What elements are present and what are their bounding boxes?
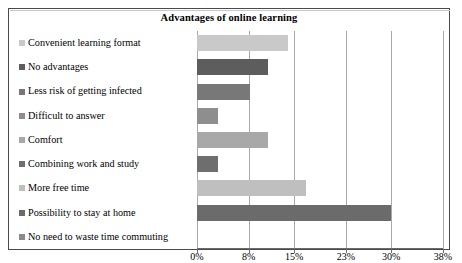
legend-item[interactable]: Less risk of getting infected bbox=[19, 79, 142, 103]
legend-swatch-icon bbox=[19, 64, 25, 70]
legend-item-label: No need to waste time commuting bbox=[28, 232, 168, 242]
legend-item[interactable]: No advantages bbox=[19, 55, 88, 79]
legend-item-label: Comfort bbox=[28, 135, 63, 145]
bar-slot bbox=[197, 104, 443, 128]
chart-container: Advantages of online learning Convenient… bbox=[8, 8, 450, 250]
legend-swatch-icon bbox=[19, 40, 25, 46]
chart-legend: Convenient learning formatNo advantagesL… bbox=[19, 31, 201, 249]
x-axis-tick-label: 38% bbox=[434, 251, 452, 262]
bar[interactable] bbox=[197, 84, 250, 100]
bar-slot bbox=[197, 201, 443, 225]
x-axis-tick-labels: 0%8%15%23%30%38% bbox=[197, 251, 443, 263]
legend-swatch-icon bbox=[19, 137, 25, 143]
legend-item-label: More free time bbox=[28, 183, 89, 193]
legend-item[interactable]: Possibility to stay at home bbox=[19, 201, 136, 225]
x-axis-tick-label: 23% bbox=[337, 251, 355, 262]
x-axis-tick-label: 30% bbox=[382, 251, 400, 262]
legend-item-label: Possibility to stay at home bbox=[28, 208, 136, 218]
chart-title: Advantages of online learning bbox=[9, 12, 449, 23]
legend-item-label: Convenient learning format bbox=[28, 38, 141, 48]
bar-slot bbox=[197, 176, 443, 200]
legend-item-label: No advantages bbox=[28, 62, 88, 72]
legend-item-label: Combining work and study bbox=[28, 159, 139, 169]
bar-slot bbox=[197, 55, 443, 79]
legend-item-label: Less risk of getting infected bbox=[28, 86, 142, 96]
gridline bbox=[443, 31, 444, 249]
legend-swatch-icon bbox=[19, 234, 25, 240]
bar-slot bbox=[197, 31, 443, 55]
bar[interactable] bbox=[197, 156, 218, 172]
legend-item-label: Difficult to answer bbox=[28, 111, 105, 121]
legend-item[interactable]: Combining work and study bbox=[19, 152, 139, 176]
legend-item[interactable]: Comfort bbox=[19, 128, 63, 152]
legend-item[interactable]: Difficult to answer bbox=[19, 104, 105, 128]
bar[interactable] bbox=[197, 108, 218, 124]
title-divider bbox=[10, 10, 450, 11]
legend-item[interactable]: Convenient learning format bbox=[19, 31, 141, 55]
bar[interactable] bbox=[197, 180, 306, 196]
plot-inner bbox=[197, 31, 443, 249]
bar[interactable] bbox=[197, 35, 288, 51]
legend-swatch-icon bbox=[19, 210, 25, 216]
bar[interactable] bbox=[197, 132, 268, 148]
legend-swatch-icon bbox=[19, 89, 25, 95]
x-axis-tick-label: 8% bbox=[242, 251, 255, 262]
bar-slot bbox=[197, 225, 443, 249]
bar[interactable] bbox=[197, 59, 268, 75]
legend-item[interactable]: No need to waste time commuting bbox=[19, 225, 168, 249]
legend-item[interactable]: More free time bbox=[19, 176, 89, 200]
x-axis-tick-label: 15% bbox=[285, 251, 303, 262]
bar-slot bbox=[197, 79, 443, 103]
bar[interactable] bbox=[197, 205, 391, 221]
legend-swatch-icon bbox=[19, 113, 25, 119]
bar-slot bbox=[197, 128, 443, 152]
legend-swatch-icon bbox=[19, 185, 25, 191]
x-axis-tick-label: 0% bbox=[190, 251, 203, 262]
plot-area bbox=[197, 31, 443, 249]
bar-slot bbox=[197, 152, 443, 176]
legend-swatch-icon bbox=[19, 161, 25, 167]
